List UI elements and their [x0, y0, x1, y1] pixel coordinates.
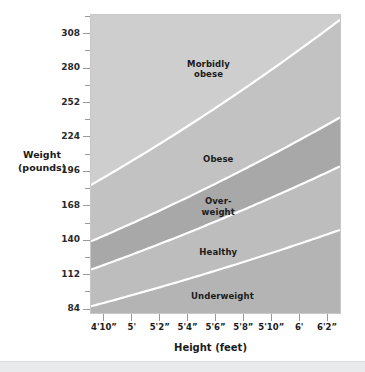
- tick-mark: [243, 314, 244, 321]
- x-axis-title: Height (feet): [28, 342, 365, 353]
- plot-area: [90, 14, 341, 314]
- tick-mark: [299, 314, 300, 321]
- y-axis-tick-label: 196: [61, 165, 80, 176]
- tick-mark: [83, 102, 90, 103]
- tick-mark: [103, 314, 104, 321]
- tick-mark: [83, 136, 90, 137]
- y-axis-tick-label: 140: [61, 234, 80, 245]
- tick-mark: [187, 314, 188, 321]
- x-axis-tick-label: 5'2”: [150, 322, 170, 332]
- x-axis-tick-label: 5'4”: [178, 322, 198, 332]
- y-axis-title-line: Weight: [6, 148, 78, 161]
- y-axis-tick-label: 84: [67, 303, 80, 314]
- tick-mark: [271, 314, 272, 321]
- tick-mark: [83, 274, 90, 275]
- y-axis-tick-label: 252: [61, 97, 80, 108]
- y-axis-tick-label: 112: [61, 269, 80, 280]
- x-axis-tick-label: 5'8”: [233, 322, 253, 332]
- x-axis-tick-label: 5': [128, 322, 137, 332]
- tick-mark: [83, 171, 90, 172]
- x-axis-tick-label: 5'10”: [258, 322, 284, 332]
- footer-bar: [0, 361, 365, 372]
- tick-mark: [83, 33, 90, 34]
- y-axis-tick-label: 168: [61, 200, 80, 211]
- x-axis-tick-label: 5'6”: [205, 322, 225, 332]
- y-axis-tick-label: 308: [61, 28, 80, 39]
- tick-mark: [83, 309, 90, 310]
- tick-mark: [83, 205, 90, 206]
- x-axis-tick-label: 4'10”: [91, 322, 117, 332]
- bmi-band-chart: [91, 15, 340, 313]
- tick-mark: [131, 314, 132, 321]
- tick-mark: [83, 240, 90, 241]
- tick-mark: [215, 314, 216, 321]
- y-axis-tick-label: 224: [61, 131, 80, 142]
- tick-mark: [159, 314, 160, 321]
- y-axis-tick-label: 280: [61, 62, 80, 73]
- tick-mark: [327, 314, 328, 321]
- bmi-chart-figure: Weight(pounds) 8411214016819622425228030…: [0, 0, 365, 372]
- tick-mark: [83, 68, 90, 69]
- x-axis-tick-label: 6'2”: [317, 322, 337, 332]
- x-axis-tick-label: 6': [295, 322, 304, 332]
